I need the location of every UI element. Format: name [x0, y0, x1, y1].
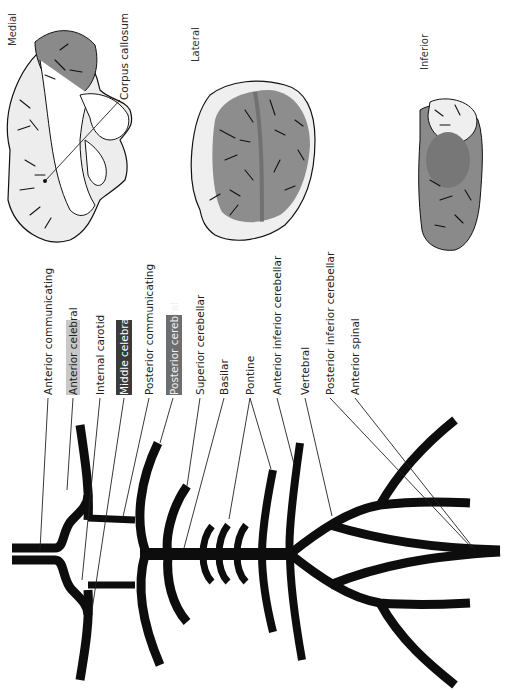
anterior-spinal-upper	[330, 525, 500, 550]
label-posterior-inferior-cerebellar: Posterior inferior cerebellar	[324, 251, 336, 395]
diagram-canvas: Medial Corpus callosum Lateral Inferior	[0, 0, 506, 690]
medial-view-label: Medial	[7, 13, 18, 46]
label-anterior-inferior-cerebellar: Anterior inferior cerebellar	[271, 255, 283, 395]
superior-cerebellar-left	[167, 486, 187, 555]
corpus-callosum-label: Corpus callosum	[118, 13, 130, 100]
artery-labels: Anterior communicating Anterior celebral…	[42, 251, 361, 395]
cerebral-arteries-diagram: Medial Corpus callosum Lateral Inferior	[0, 0, 506, 690]
label-pontine: Pontine	[244, 356, 256, 395]
internal-carotid-left	[12, 495, 88, 548]
label-internal-carotid: Internal carotid	[94, 315, 106, 395]
internal-carotid-right	[12, 560, 88, 615]
lateral-view-label: Lateral	[190, 27, 201, 62]
inferior-view-label: Inferior	[419, 33, 430, 70]
circle-of-willis-arteries	[12, 420, 500, 685]
label-anterior-cerebral: Anterior celebral	[67, 307, 79, 395]
label-vertebral: Vertebral	[299, 347, 311, 395]
posterior-communicating-left	[88, 518, 135, 520]
superior-cerebellar-right	[168, 555, 187, 622]
label-basilar: Basilar	[218, 359, 230, 395]
posterior-inferior-cerebellar-right	[380, 603, 455, 685]
label-middle-cerebral: Middle celebral	[118, 315, 130, 395]
label-posterior-cerebral: Posterior cerebral	[168, 302, 180, 395]
label-posterior-communicating: Posterior communicating	[143, 264, 155, 395]
medial-brain-view: Medial Corpus callosum	[7, 13, 132, 242]
label-anterior-spinal: Anterior spinal	[349, 318, 361, 395]
label-anterior-communicating: Anterior communicating	[42, 268, 54, 395]
inferior-brain-view: Inferior	[419, 33, 483, 250]
lateral-brain-view: Lateral	[190, 27, 315, 240]
posterior-cerebral-right	[141, 555, 160, 665]
anterior-spinal-lower	[330, 552, 500, 585]
label-superior-cerebellar: Superior cerebellar	[194, 294, 206, 395]
vertebral-right	[290, 554, 470, 605]
posterior-cerebral-left	[140, 443, 158, 550]
